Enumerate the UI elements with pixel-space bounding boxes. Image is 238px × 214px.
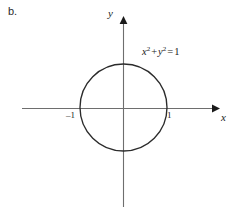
equation-right-hand-side: 1: [174, 46, 179, 57]
part-label: b.: [8, 6, 17, 17]
figure-canvas: b. y x –1 1 x2+y2=1: [0, 0, 238, 214]
y-axis-arrowhead: [120, 16, 128, 24]
x-tick-label-negative-one: –1: [66, 111, 75, 120]
equation-plus-operator: +: [150, 46, 158, 57]
x-axis-label: x: [221, 112, 226, 123]
x-axis-arrowhead: [212, 105, 220, 113]
circle-equation-annotation: x2+y2=1: [142, 47, 179, 58]
equation-equals-operator: =: [166, 46, 174, 57]
x-tick-label-positive-one: 1: [167, 111, 172, 120]
y-axis-label: y: [108, 8, 113, 19]
coordinate-plane-graphic: [0, 0, 238, 214]
